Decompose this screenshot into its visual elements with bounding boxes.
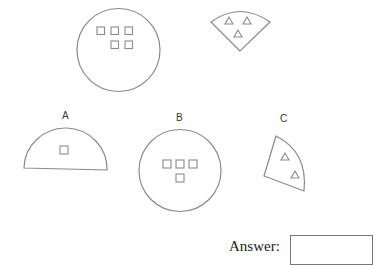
square-icon	[176, 160, 184, 168]
top-sector-outline	[211, 12, 270, 52]
option-a-figure[interactable]: A	[24, 110, 107, 170]
option-b-label: B	[176, 112, 183, 123]
option-c-label: C	[280, 113, 287, 124]
triangle-icon	[243, 17, 251, 24]
answer-input-box[interactable]	[290, 235, 373, 265]
square-icon	[189, 160, 197, 168]
sector-outline	[264, 136, 304, 191]
triangle-icon	[225, 17, 233, 24]
answer-label: Answer:	[229, 238, 280, 255]
circle-outline	[139, 130, 221, 212]
square-icon	[60, 146, 68, 154]
triangle-icon	[281, 153, 289, 160]
option-b-figure[interactable]: B	[139, 112, 221, 212]
square-icon	[125, 41, 133, 49]
top-circle-figure	[77, 9, 160, 92]
square-icon	[163, 160, 171, 168]
option-c-figure[interactable]: C	[264, 113, 304, 191]
top-sector-figure	[211, 12, 270, 52]
square-icon	[111, 27, 119, 35]
option-a-label: A	[62, 110, 69, 121]
triangle-icon	[234, 30, 242, 37]
square-icon	[97, 27, 105, 35]
square-icon	[111, 41, 119, 49]
semicircle-outline	[24, 128, 107, 170]
top-circle-outline	[77, 9, 160, 92]
square-icon	[125, 27, 133, 35]
square-icon	[176, 174, 184, 182]
triangle-icon	[291, 171, 299, 178]
